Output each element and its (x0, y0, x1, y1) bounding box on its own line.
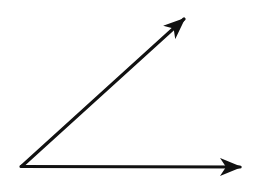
oblique-ray (22, 19, 184, 166)
horizontal-ray (21, 167, 240, 168)
angle-figure (0, 0, 254, 195)
angle-diagram: An acute angle formed by two rays sharin… (0, 0, 254, 195)
vertex-point (20, 164, 23, 167)
